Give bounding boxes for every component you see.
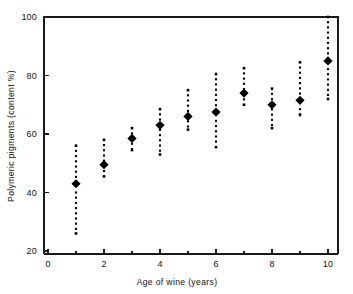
- error-bar-dot: [75, 191, 77, 193]
- error-bar-dot: [327, 47, 329, 49]
- error-bar-lower-cap: [75, 232, 78, 235]
- error-bar-dot: [103, 149, 105, 151]
- x-axis-tick-label: 4: [157, 259, 162, 269]
- plot-axes: [44, 17, 338, 254]
- error-bar-lower-cap: [103, 175, 106, 178]
- error-bar-dot: [299, 108, 301, 110]
- error-bar-dot: [299, 66, 301, 68]
- data-point-group: [295, 61, 304, 116]
- error-bar-dot: [271, 124, 273, 126]
- error-bar-dot: [327, 21, 329, 23]
- error-bar-dot: [299, 82, 301, 84]
- data-point-group: [71, 144, 80, 234]
- error-bar-upper-cap: [159, 108, 162, 111]
- data-point-marker: [155, 121, 164, 130]
- axis-ticks: [44, 17, 328, 254]
- error-bar-dot: [159, 118, 161, 120]
- error-bar-upper-cap: [75, 144, 78, 147]
- error-bar-lower-cap: [299, 114, 302, 117]
- x-axis-tick-label: 8: [269, 259, 274, 269]
- error-bar-dot: [327, 52, 329, 54]
- error-bar-dot: [215, 104, 217, 106]
- x-axis-tick-label: 6: [213, 259, 218, 269]
- error-bar-dot: [215, 120, 217, 122]
- error-bar-dot: [187, 125, 189, 127]
- error-bar-dot: [327, 84, 329, 86]
- error-bar-dot: [75, 176, 77, 178]
- error-bar-dot: [299, 92, 301, 94]
- error-bar-upper-cap: [131, 127, 134, 130]
- chart-figure: 204060801000246810 Age of wine (years) P…: [0, 0, 353, 294]
- error-bar-dot: [271, 98, 273, 100]
- error-bar-dot: [215, 83, 217, 85]
- error-bar-dot: [159, 113, 161, 115]
- error-bar-dot: [327, 37, 329, 39]
- error-bar-dot: [215, 78, 217, 80]
- y-axis-tick-label: 80: [27, 71, 37, 81]
- data-point-marker: [295, 96, 304, 105]
- error-bar-dot: [327, 89, 329, 91]
- error-bar-dot: [159, 150, 161, 152]
- error-bar-dot: [75, 197, 77, 199]
- y-axis-title: Polymeric pigments (content %): [6, 70, 16, 202]
- data-point-group: [99, 139, 108, 178]
- data-point-group: [155, 108, 164, 156]
- error-bar-dot: [215, 135, 217, 137]
- error-bar-dot: [243, 72, 245, 74]
- error-bar-dot: [327, 42, 329, 44]
- error-bar-lower-cap: [271, 127, 274, 130]
- error-bar-dot: [187, 94, 189, 96]
- x-axis-tick-label: 2: [101, 259, 106, 269]
- error-bar-dot: [75, 202, 77, 204]
- error-bar-dot: [75, 165, 77, 167]
- data-point-marker: [323, 56, 332, 65]
- data-point-marker: [127, 134, 136, 143]
- data-point-group: [183, 89, 192, 131]
- error-bar-dot: [75, 171, 77, 173]
- error-bar-dot: [75, 160, 77, 162]
- error-bar-dot: [75, 223, 77, 225]
- error-bar-dot: [271, 93, 273, 95]
- data-point-group: [239, 67, 248, 106]
- error-bar-dot: [327, 32, 329, 34]
- error-bar-dot: [103, 144, 105, 146]
- error-bar-dot: [103, 154, 105, 156]
- error-bar-dot: [103, 170, 105, 172]
- error-bar-dot: [215, 130, 217, 132]
- error-bar-dot: [75, 217, 77, 219]
- y-axis-tick-label: 60: [27, 129, 37, 139]
- error-bar-upper-cap: [243, 67, 246, 70]
- error-bar-upper-cap: [187, 89, 190, 92]
- error-bar-dot: [215, 141, 217, 143]
- error-bar-dot: [75, 207, 77, 209]
- error-bar-dot: [75, 228, 77, 230]
- y-axis-tick-label: 100: [21, 12, 37, 22]
- error-bar-dot: [215, 94, 217, 96]
- data-point-group: [323, 16, 332, 101]
- error-bar-lower-cap: [159, 153, 162, 156]
- error-bar-dot: [327, 94, 329, 96]
- error-bar-dot: [243, 83, 245, 85]
- data-point-marker: [211, 107, 220, 116]
- error-bar-upper-cap: [215, 73, 218, 76]
- error-bar-dot: [159, 144, 161, 146]
- error-bar-dot: [187, 99, 189, 101]
- error-bar-upper-cap: [327, 16, 330, 19]
- error-bar-dot: [299, 77, 301, 79]
- error-bar-dot: [187, 110, 189, 112]
- error-bar-lower-cap: [327, 98, 330, 101]
- error-bar-dot: [131, 143, 133, 145]
- data-point-marker: [267, 100, 276, 109]
- error-bar-dot: [271, 119, 273, 121]
- error-bar-dot: [327, 73, 329, 75]
- x-axis-title: Age of wine (years): [137, 277, 218, 287]
- error-bar-dot: [243, 78, 245, 80]
- data-point-marker: [71, 179, 80, 188]
- error-bar-dot: [327, 26, 329, 28]
- data-point-group: [267, 87, 276, 129]
- y-axis-tick-label: 40: [27, 188, 37, 198]
- error-bar-dot: [215, 99, 217, 101]
- plot-frame: [44, 17, 338, 254]
- x-axis-tick-label: 0: [45, 259, 50, 269]
- error-bar-dot: [271, 114, 273, 116]
